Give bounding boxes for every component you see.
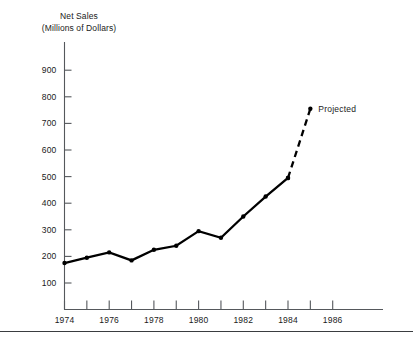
data-point-1981: [219, 236, 223, 240]
x-tick-label-1984: 1984: [278, 315, 298, 325]
x-tick-label-1982: 1982: [233, 315, 253, 325]
data-point-1985: [308, 107, 312, 111]
x-tick-label-1978: 1978: [144, 315, 164, 325]
data-point-1978: [152, 248, 156, 252]
y-tick-label-300: 300: [42, 225, 57, 235]
y-tick-label-200: 200: [42, 251, 57, 261]
y-tick-label-600: 600: [42, 145, 57, 155]
y-axis-tick-labels: 100200300400500600700800900: [42, 65, 57, 288]
y-axis-ticks: [65, 70, 72, 283]
data-point-1975: [85, 256, 89, 260]
x-tick-label-1986: 1986: [323, 315, 343, 325]
net-sales-line-chart: Net Sales (Millions of Dollars) 10020030…: [0, 0, 413, 349]
x-tick-label-1980: 1980: [189, 315, 209, 325]
series-line-1: [288, 109, 310, 178]
chart-plot-area: 100200300400500600700800900 197419761978…: [0, 0, 413, 349]
data-point-1980: [196, 229, 200, 233]
data-point-1977: [129, 258, 133, 262]
series-line-0: [65, 178, 289, 263]
annotation-projected: Projected: [318, 104, 356, 114]
y-tick-label-400: 400: [42, 198, 57, 208]
y-tick-label-800: 800: [42, 92, 57, 102]
x-tick-label-1976: 1976: [99, 315, 119, 325]
data-point-1982: [241, 214, 245, 218]
data-point-1979: [174, 244, 178, 248]
y-tick-label-900: 900: [42, 65, 57, 75]
footer-divider: [0, 331, 413, 332]
data-point-1984: [286, 176, 290, 180]
data-point-1974: [62, 261, 66, 265]
x-tick-label-1974: 1974: [55, 315, 75, 325]
axes-group: [65, 42, 384, 310]
y-tick-label-700: 700: [42, 118, 57, 128]
data-series-layer: [65, 109, 311, 263]
data-point-1976: [107, 250, 111, 254]
x-axis-ticks: [65, 301, 333, 310]
data-point-1983: [263, 194, 267, 198]
chart-annotations: Projected: [318, 104, 356, 114]
y-tick-label-500: 500: [42, 172, 57, 182]
data-point-markers: [62, 107, 312, 266]
y-tick-label-100: 100: [42, 278, 57, 288]
x-axis-tick-labels: 1974197619781980198219841986: [55, 315, 343, 325]
